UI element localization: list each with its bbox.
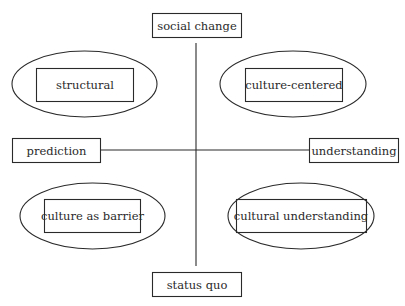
axis-label-left-text: prediction — [27, 144, 87, 158]
axis-label-bottom: status quo — [153, 273, 242, 297]
axis-label-top-text: social change — [157, 19, 237, 33]
quadrant-diagram: social change status quo prediction unde… — [0, 0, 405, 306]
quadrant-top-left: structural — [12, 51, 157, 117]
quadrant-label: culture-centered — [245, 78, 343, 92]
quadrant-label: cultural understanding — [234, 209, 369, 223]
quadrant-label: structural — [56, 78, 114, 92]
axis-label-top: social change — [153, 14, 242, 38]
axis-label-right-text: understanding — [311, 144, 397, 158]
quadrant-top-right: culture-centered — [220, 51, 366, 117]
quadrant-label: culture as barrier — [41, 209, 145, 223]
quadrant-bottom-left: culture as barrier — [20, 183, 165, 249]
axis-label-left: prediction — [13, 139, 101, 163]
axis-label-right: understanding — [310, 139, 399, 163]
axis-label-bottom-text: status quo — [167, 278, 228, 292]
quadrant-bottom-right: cultural understanding — [228, 183, 374, 249]
